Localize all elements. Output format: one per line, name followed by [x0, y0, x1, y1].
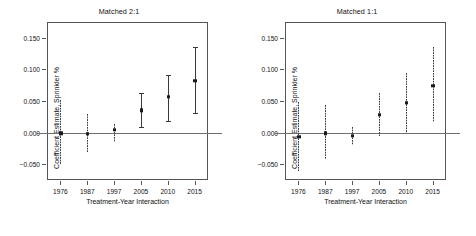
- x-axis-tick-label-left: 2005: [134, 188, 149, 195]
- y-axis-tick-label-left: 0.150: [23, 34, 40, 41]
- x-axis-tick-left: [168, 181, 169, 185]
- panel-matched-1to1: Matched 1:1 Coefficient Estimate, Sprink…: [238, 0, 476, 236]
- data-point-right-1976: [297, 135, 300, 138]
- x-axis-tick-right: [433, 181, 434, 185]
- x-axis-tick-label-left: 1997: [107, 188, 122, 195]
- x-axis-right: 197619871997200520102015: [285, 181, 446, 182]
- y-axis-tick-label-right: −0.050: [258, 161, 278, 168]
- x-axis-tick-left: [195, 181, 196, 185]
- error-bar-cap-top: [166, 75, 171, 76]
- y-axis-tick-left: [42, 38, 46, 39]
- x-axis-tick-label-right: 1997: [345, 188, 360, 195]
- x-axis-tick-right: [298, 181, 299, 185]
- y-axis-tick-right: [280, 101, 284, 102]
- panel-title-left: Matched 2:1: [0, 7, 238, 16]
- data-point-left-2010: [167, 95, 170, 98]
- data-layer-right: [285, 22, 446, 180]
- y-axis-tick-left: [42, 69, 46, 70]
- y-axis-tick-right: [280, 69, 284, 70]
- data-point-right-2005: [378, 113, 381, 116]
- x-axis-tick-right: [406, 181, 407, 185]
- x-axis-tick-label-left: 2010: [160, 188, 175, 195]
- error-bar-cap-bottom: [166, 121, 171, 122]
- x-axis-tick-right: [352, 181, 353, 185]
- x-axis-tick-label-right: 2005: [372, 188, 387, 195]
- x-axis-tick-label-right: 2010: [398, 188, 413, 195]
- x-axis-tick-label-right: 1987: [318, 188, 333, 195]
- x-axis-tick-label-right: 2015: [425, 188, 440, 195]
- y-axis-tick-label-right: 0.150: [261, 34, 278, 41]
- y-axis-tick-label-right: 0.100: [261, 66, 278, 73]
- data-point-left-1987: [86, 132, 89, 135]
- error-bar-left-2010: [168, 75, 169, 122]
- data-point-right-2010: [405, 101, 408, 104]
- figure-container: Matched 2:1 Coefficient Estimate, Sprink…: [0, 0, 476, 236]
- zero-reference-line-right: [275, 133, 460, 134]
- error-bar-cap-top: [139, 93, 144, 94]
- zero-reference-line-left: [37, 133, 222, 134]
- data-point-left-2005: [140, 109, 143, 112]
- x-axis-title-right: Treatment-Year Interaction: [285, 198, 446, 205]
- data-layer-left: [47, 22, 208, 180]
- x-axis-tick-left: [114, 181, 115, 185]
- y-axis-tick-right: [280, 164, 284, 165]
- data-point-left-1997: [113, 128, 116, 131]
- error-bar-cap-bottom: [139, 127, 144, 128]
- data-point-right-1997: [351, 134, 354, 137]
- error-bar-left-1997: [114, 124, 115, 142]
- x-axis-tick-label-left: 2015: [187, 188, 202, 195]
- y-axis-tick-label-left: 0.100: [23, 66, 40, 73]
- y-axis-tick-left: [42, 164, 46, 165]
- y-axis-tick-label-left: −0.050: [20, 161, 40, 168]
- data-point-right-2015: [431, 84, 434, 87]
- data-point-left-2015: [193, 79, 196, 82]
- x-axis-tick-left: [87, 181, 88, 185]
- y-axis-tick-right: [280, 38, 284, 39]
- data-point-right-1987: [324, 132, 327, 135]
- x-axis-title-left: Treatment-Year Interaction: [47, 198, 208, 205]
- x-axis-tick-right: [325, 181, 326, 185]
- panel-title-right: Matched 1:1: [238, 7, 476, 16]
- x-axis-tick-left: [60, 181, 61, 185]
- x-axis-tick-label-right: 1976: [291, 188, 306, 195]
- error-bar-cap-bottom: [193, 113, 198, 114]
- panel-matched-2to1: Matched 2:1 Coefficient Estimate, Sprink…: [0, 0, 238, 236]
- x-axis-tick-label-left: 1976: [53, 188, 68, 195]
- x-axis-tick-left: [141, 181, 142, 185]
- data-point-left-1976: [59, 132, 62, 135]
- x-axis-left: 197619871997200520102015: [47, 181, 208, 182]
- x-axis-tick-label-left: 1987: [80, 188, 95, 195]
- y-axis-tick-left: [42, 101, 46, 102]
- x-axis-tick-right: [379, 181, 380, 185]
- y-axis-tick-label-right: 0.050: [261, 98, 278, 105]
- y-axis-tick-label-left: 0.050: [23, 98, 40, 105]
- error-bar-cap-top: [193, 47, 198, 48]
